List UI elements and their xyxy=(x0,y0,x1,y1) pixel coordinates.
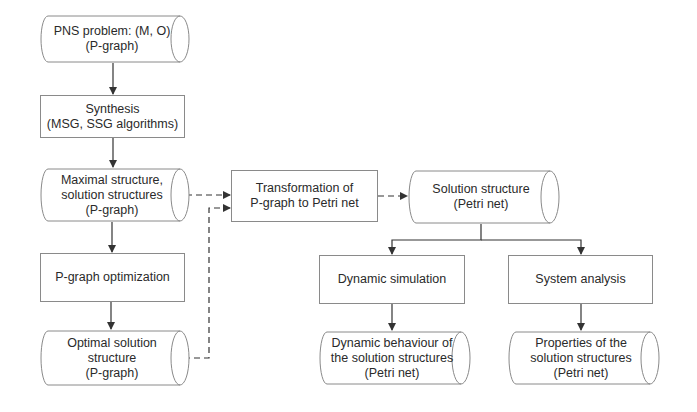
node-label: Synthesis (MSG, SSG algorithms) xyxy=(47,102,178,132)
node-label: Dynamic behaviour of the solution struct… xyxy=(331,336,461,381)
node-properties: Properties of the solution structures (P… xyxy=(508,331,662,385)
node-solution-structure-petri: Solution structure (Petri net) xyxy=(408,170,562,224)
node-transformation: Transformation of P-graph to Petri net xyxy=(231,170,378,222)
node-label: P-graph optimization xyxy=(55,270,170,285)
node-label: PNS problem: (M, O) (P-graph) xyxy=(54,24,179,54)
node-dynamic-behaviour: Dynamic behaviour of the solution struct… xyxy=(319,331,473,385)
node-label: System analysis xyxy=(535,272,625,287)
node-label: Optimal solution structure (P-graph) xyxy=(67,336,165,381)
node-maximal-structure: Maximal structure, solution structures (… xyxy=(40,168,192,222)
node-pgraph-optimization: P-graph optimization xyxy=(40,253,185,302)
arrow-solution-to-system-analysis xyxy=(481,240,581,254)
node-label: Properties of the solution structures (P… xyxy=(530,336,639,381)
node-dynamic-simulation: Dynamic simulation xyxy=(319,255,465,304)
node-label: Maximal structure, solution structures (… xyxy=(61,173,171,218)
node-pns-problem: PNS problem: (M, O) (P-graph) xyxy=(40,15,192,63)
node-system-analysis: System analysis xyxy=(508,255,653,304)
node-label: Transformation of P-graph to Petri net xyxy=(250,181,358,211)
node-synthesis: Synthesis (MSG, SSG algorithms) xyxy=(40,95,185,138)
node-label: Dynamic simulation xyxy=(338,272,446,287)
node-label: Solution structure (Petri net) xyxy=(432,182,537,212)
arrow-solution-to-dynamic-sim xyxy=(392,224,481,254)
node-optimal-solution: Optimal solution structure (P-graph) xyxy=(40,330,192,386)
